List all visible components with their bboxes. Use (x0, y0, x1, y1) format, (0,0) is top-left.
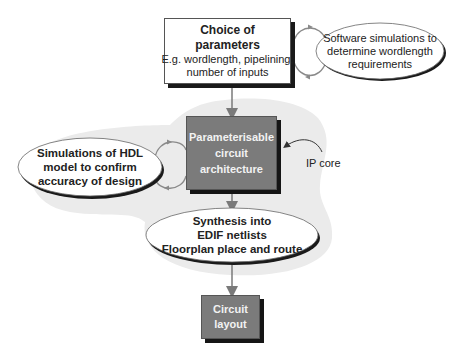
choice-of-parameters-box: Choice of parameters E.g. wordlength, pi… (164, 18, 291, 84)
choice-detail-line2: number of inputs (187, 66, 269, 79)
ip-core-label: IP core (306, 157, 341, 169)
synthesis-line2: EDIF netlists (197, 228, 267, 242)
synthesis-line1: Synthesis into (193, 214, 272, 228)
layout-line1: Circuit (213, 302, 248, 317)
synthesis-text: Synthesis into EDIF netlists Floorplan p… (146, 208, 318, 262)
software-sim-line2: determine wordlength (327, 45, 433, 58)
circuit-layout-box: Circuit layout (201, 295, 260, 339)
hdl-sim-line2: model to confirm (43, 160, 136, 174)
synthesis-line3: Floorplan place and route (162, 242, 303, 256)
software-sim-line1: Software simulations to (323, 32, 437, 45)
software-sim-line3: requirements (348, 58, 412, 71)
software-sim-text: Software simulations to determine wordle… (316, 23, 444, 79)
ip-box-line1: Parameterisable (189, 129, 274, 145)
hdl-sim-line3: accuracy of design (38, 174, 142, 188)
ip-box-line3: architecture (200, 161, 263, 177)
parameterisable-architecture-box: Parameterisable circuit architecture (186, 116, 277, 190)
hdl-sim-text: Simulations of HDL model to confirm accu… (18, 138, 162, 196)
layout-line2: layout (214, 317, 246, 332)
flow-diagram: Choice of parameters E.g. wordlength, pi… (0, 0, 462, 355)
choice-title-line1: Choice of (200, 23, 255, 38)
hdl-sim-line1: Simulations of HDL (37, 146, 143, 160)
choice-title-line2: parameters (195, 38, 260, 53)
ip-box-line2: circuit (215, 145, 248, 161)
choice-detail-line1: E.g. wordlength, pipelining, (161, 53, 293, 66)
